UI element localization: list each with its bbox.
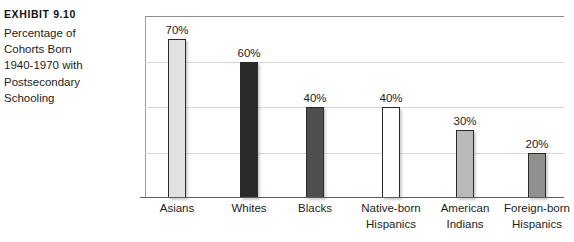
- bar-group: 20%: [528, 16, 546, 198]
- bar-value-label: 60%: [221, 47, 277, 60]
- bar-group: 70%: [168, 16, 186, 198]
- x-axis-category-label: Foreign-bornHispanics: [494, 201, 574, 232]
- category-label-line: Blacks: [272, 201, 358, 217]
- bar: [456, 130, 474, 198]
- bar-value-label: 20%: [509, 138, 565, 151]
- caption-line: Schooling: [4, 90, 132, 106]
- bars-group: 70%60%40%40%30%20%: [145, 16, 564, 198]
- caption-line: 1940-1970 with: [4, 57, 132, 73]
- bar-value-label: 30%: [437, 115, 493, 128]
- caption-line: Postsecondary: [4, 74, 132, 90]
- bar-value-label: 70%: [149, 24, 205, 37]
- category-label-line: Foreign-born: [494, 201, 574, 217]
- caption-line: Percentage of: [4, 25, 132, 41]
- exhibit-caption: Exhibit 9.10 Percentage of Cohorts Born …: [4, 8, 132, 106]
- bar-value-label: 40%: [363, 92, 419, 105]
- bar-group: 40%: [306, 16, 324, 198]
- bar: [382, 107, 400, 198]
- x-axis-category-labels: AsiansWhitesBlacksNative-bornHispanicsAm…: [145, 201, 564, 241]
- bar-value-label: 40%: [287, 92, 343, 105]
- bar: [528, 153, 546, 199]
- exhibit-caption-text: Percentage of Cohorts Born 1940-1970 wit…: [4, 25, 132, 106]
- bar-group: 40%: [382, 16, 400, 198]
- x-axis-line: [140, 197, 564, 198]
- category-label-line: Hispanics: [494, 217, 574, 233]
- caption-line: Cohorts Born: [4, 41, 132, 57]
- bar: [168, 39, 186, 198]
- bar-group: 30%: [456, 16, 474, 198]
- x-axis-category-label: Blacks: [272, 201, 358, 217]
- bar: [306, 107, 324, 198]
- bar-chart-plot-area: 70%60%40%40%30%20%: [145, 16, 564, 198]
- bar-group: 60%: [240, 16, 258, 198]
- exhibit-number-label: Exhibit 9.10: [4, 8, 132, 20]
- bar: [240, 62, 258, 199]
